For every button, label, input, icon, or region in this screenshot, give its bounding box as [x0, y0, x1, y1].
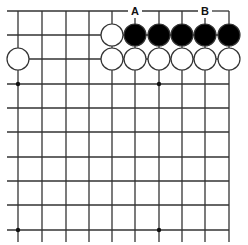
white-stone: [194, 48, 216, 70]
board-grid: [7, 11, 229, 242]
point-label: B: [201, 5, 209, 17]
star-point-icon: [157, 82, 161, 86]
black-stone: [148, 24, 170, 46]
white-stone: [171, 48, 193, 70]
white-stone: [7, 48, 29, 70]
star-point-icon: [16, 82, 20, 86]
point-label: A: [131, 5, 139, 17]
white-stone: [148, 48, 170, 70]
star-point-icon: [157, 228, 161, 232]
star-point-icon: [16, 228, 20, 232]
black-stone: [124, 24, 146, 46]
white-stone: [124, 48, 146, 70]
black-stone: [194, 24, 216, 46]
black-stone: [171, 24, 193, 46]
white-stone: [101, 24, 123, 46]
white-stone: [101, 48, 123, 70]
black-stone: [218, 24, 240, 46]
go-board: AB: [0, 0, 248, 245]
white-stone: [218, 48, 240, 70]
